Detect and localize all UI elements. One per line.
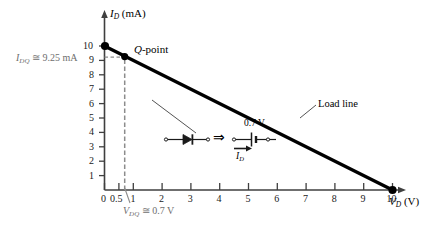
x-tick-label-0: 0 (101, 194, 106, 204)
battery-voltage-label: 0.7 V (244, 119, 265, 129)
x-tick-label-0-5: 0.5 (110, 194, 123, 204)
y-tick-label-2: 2 (89, 156, 94, 166)
q-point-label: Q-point (134, 44, 168, 55)
y-tick-label-6: 6 (89, 99, 94, 109)
y-axis-ticks (99, 46, 105, 176)
y-tick-label-5: 5 (89, 113, 94, 123)
y-axis (101, 10, 108, 190)
y-axis-title: ID (mA) (110, 8, 146, 21)
q-point-guides (105, 57, 131, 203)
x-tick-label-3: 3 (188, 194, 193, 204)
q-point-suffix: -point (142, 43, 168, 55)
x-tick-label-4: 4 (217, 194, 222, 204)
id-q-value: ≅ 9.25 mA (32, 52, 78, 63)
x-tick-label-9: 9 (361, 194, 366, 204)
vd-q-value: ≅ 0.7 V (142, 205, 175, 216)
y-tick-label-1: 1 (89, 171, 94, 181)
y-tick-label-9: 9 (89, 55, 94, 65)
x-tick-label-7: 7 (303, 194, 308, 204)
load-line-label: Load line (318, 99, 358, 110)
x-axis-subscript: D (396, 200, 401, 209)
y-tick-label-10: 10 (83, 41, 93, 51)
x-tick-label-8: 8 (332, 194, 337, 204)
figure-root: ID (mA) VD (V) 10 9 8 7 6 5 4 3 2 1 0 0.… (0, 0, 427, 230)
battery-symbol (232, 133, 276, 147)
implies-arrow: ⇒ (213, 131, 225, 145)
vd-q-annotation: VDQ ≅ 0.7 V (123, 206, 174, 218)
id-q-annotation: IDQ ≅ 9.25 mA (16, 53, 77, 65)
x-axis-ticks (105, 183, 393, 190)
vd-q-sub-q: Q (134, 210, 139, 218)
y-tick-label-7: 7 (89, 84, 94, 94)
x-tick-label-5: 5 (245, 194, 250, 204)
x-tick-label-6: 6 (274, 194, 279, 204)
current-subscript: D (239, 155, 244, 162)
x-tick-label-10: 10 (387, 194, 397, 204)
y-tick-label-3: 3 (89, 142, 94, 152)
x-tick-label-1: 1 (131, 194, 136, 204)
x-tick-label-2: 2 (159, 194, 164, 204)
y-axis-subscript: D (114, 12, 119, 21)
y-tick-label-4: 4 (89, 127, 94, 137)
y-tick-label-8: 8 (89, 70, 94, 80)
x-axis-unit: (V) (404, 195, 419, 207)
y-axis-unit: (mA) (122, 7, 146, 19)
q-point-letter: Q (134, 43, 142, 55)
diode-symbol (164, 134, 209, 144)
current-label: ID (236, 152, 244, 163)
load-line-leader (300, 105, 316, 118)
id-q-sub-q: Q (24, 57, 29, 65)
y-intercept-dot (101, 42, 109, 50)
circuit-leader (152, 100, 196, 133)
q-point-dot (121, 53, 128, 60)
